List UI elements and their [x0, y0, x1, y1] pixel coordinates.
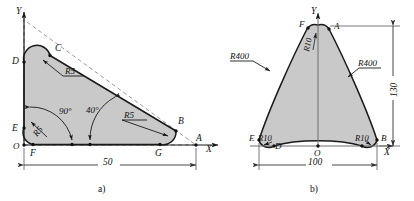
caption-a: a) [98, 184, 105, 195]
point-label-D-b: D [274, 141, 282, 151]
radius-callout-r400-right-b: R400 [348, 58, 381, 77]
point-label-B-a: B [178, 116, 184, 126]
technical-drawing: Y X O C D E F G B A R5 R5 [0, 0, 414, 201]
point-label-B-b: B [381, 133, 387, 143]
point-label-G-a: G [155, 148, 162, 158]
radius-label-r400-right-b: R400 [357, 58, 377, 68]
radius-label-r5-top-a: R5 [64, 66, 75, 76]
point-label-F-a: F [29, 148, 36, 158]
point-label-E-a: E [11, 123, 18, 133]
point-dot-F-b [306, 26, 309, 29]
angle-label-40-a: 40° [86, 105, 99, 115]
point-dot-O-a [22, 143, 25, 146]
point-dot-A-a [194, 143, 197, 146]
axis-label-x-a: X [205, 144, 213, 154]
point-dot-E-a [22, 126, 25, 129]
dimension-label-100-b: 100 [308, 157, 323, 167]
point-label-D-a: D [11, 56, 19, 66]
point-dot-G-a [158, 143, 161, 146]
point-dot-C-a [48, 54, 51, 57]
caption-b: b) [310, 184, 318, 195]
point-label-F-b: F [298, 19, 305, 29]
radius-callout-r400-left-b: R400 [229, 51, 270, 71]
point-label-C-a: C [55, 43, 62, 53]
axis-label-y-a: Y [16, 6, 23, 16]
point-dot-arc40-a [88, 143, 91, 146]
diagram-a: Y X O C D E F G B A R5 R5 [11, 6, 218, 195]
diagram-b: Y X O F A E D B R10 R10 R10 [229, 6, 400, 195]
dimension-width-50-a: 50 [24, 148, 196, 170]
dimension-label-130-b: 130 [389, 83, 399, 98]
point-dot-O-b [316, 144, 319, 147]
radius-label-r10-left-b: R10 [257, 133, 272, 143]
point-dot-C-b [360, 144, 363, 147]
point-dot-A-b [327, 27, 330, 30]
radius-label-r400-left-b: R400 [229, 51, 249, 61]
radius-label-r5-right-a: R5 [123, 110, 134, 120]
figure-canvas: Y X O C D E F G B A R5 R5 [0, 0, 414, 201]
point-label-A-a: A [195, 133, 202, 143]
point-dot-arc90-a [70, 143, 73, 146]
radius-label-r10-right-b: R10 [354, 133, 369, 143]
axis-label-x-b: X [383, 147, 391, 157]
axis-label-y-b: Y [311, 6, 318, 16]
profile-outline-a [23, 45, 176, 145]
point-dot-B-a [174, 129, 177, 132]
point-dot-B-b [375, 138, 378, 141]
point-label-E-b: E [248, 133, 255, 143]
angle-label-90-a: 90° [59, 106, 72, 116]
point-dot-D-a [22, 60, 25, 63]
origin-label-a: O [13, 141, 20, 151]
dimension-label-50-a: 50 [103, 157, 113, 167]
point-dot-F-a [31, 143, 34, 146]
